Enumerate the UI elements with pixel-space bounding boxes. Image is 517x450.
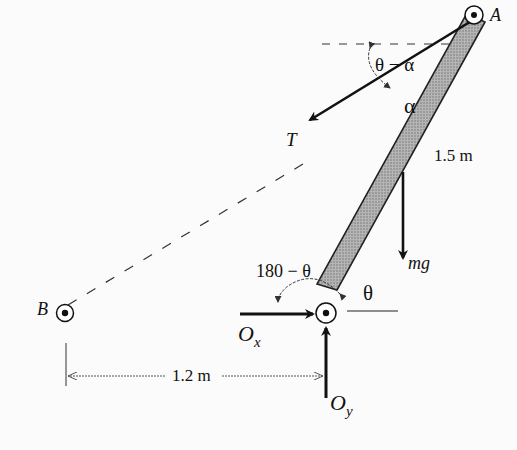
label-reaction-x: Ox: [238, 323, 261, 345]
free-body-diagram: [0, 0, 517, 450]
label-length: 1.5 m: [434, 147, 473, 164]
reaction-y-subscript: y: [346, 403, 353, 419]
reaction-x-subscript: x: [254, 334, 261, 350]
label-reaction-y: Oy: [330, 392, 353, 414]
label-angle-theta-minus-alpha: θ − α: [375, 55, 414, 74]
label-angle-alpha: α: [404, 95, 416, 117]
pin-o-icon: [316, 303, 336, 323]
label-point-a: A: [490, 6, 501, 24]
pin-a-icon: [465, 6, 483, 24]
diagram-canvas: A B θ − α α T 1.5 m mg 180 − θ θ Ox Oy 1…: [0, 0, 517, 450]
pin-b-icon: [57, 305, 74, 322]
label-weight: mg: [408, 254, 430, 272]
label-point-b: B: [37, 300, 48, 318]
reaction-y-base: O: [330, 390, 346, 415]
label-angle-180-minus-theta: 180 − θ: [256, 262, 311, 280]
label-distance: 1.2 m: [172, 367, 211, 384]
label-angle-theta: θ: [363, 283, 373, 304]
cable-line-b-to-a: [68, 164, 303, 305]
label-tension: T: [286, 130, 297, 149]
reaction-x-base: O: [238, 321, 254, 346]
